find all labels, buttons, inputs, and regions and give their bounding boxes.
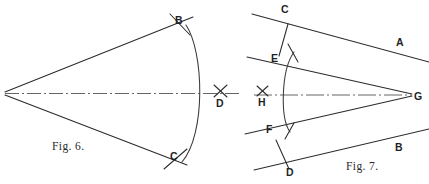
fig6-label-c: C (170, 150, 178, 162)
fig7-label-f: F (266, 123, 272, 135)
fig6-upper-ray (5, 17, 193, 92)
fig6-caption: Fig. 6. (52, 140, 85, 152)
fig7-label-a: A (396, 36, 404, 48)
figure-page: B C D C A E H G F D B Fig. 6. Fig. 7. (0, 0, 429, 184)
fig7-label-c: C (281, 3, 289, 15)
fig7-cross-mark-h (257, 86, 268, 96)
fig6-lower-ray (5, 95, 187, 165)
fig7-label-d: D (286, 166, 294, 178)
fig7-label-h: H (258, 96, 266, 108)
technical-drawing-canvas (0, 0, 429, 184)
fig7-label-e: E (271, 52, 278, 64)
fig6-cross-mark-d (214, 85, 227, 97)
fig6-group (5, 14, 240, 169)
fig7-arc (283, 52, 294, 132)
fig6-label-d: D (216, 97, 224, 109)
fig7-caption: Fig. 7. (346, 160, 379, 172)
fig6-label-b: B (175, 14, 183, 26)
fig7-label-g: G (414, 90, 422, 102)
fig7-label-b: B (395, 141, 403, 153)
fig7-segment-ce (279, 24, 288, 56)
